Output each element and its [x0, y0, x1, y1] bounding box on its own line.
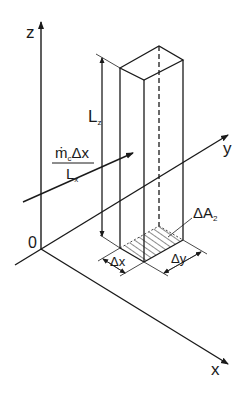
area-label: ΔA2: [193, 205, 217, 223]
flux-numerator: ṁcΔx: [55, 145, 89, 163]
dy-label: Δy: [171, 252, 186, 265]
flux-numerator-dx: Δx: [72, 144, 90, 161]
diagram-graphics: [0, 0, 244, 398]
area-label-main: ΔA: [193, 204, 213, 221]
y-axis-label: y: [223, 140, 232, 157]
origin-label: 0: [28, 235, 37, 251]
area-leader-line: [168, 218, 192, 237]
height-label: Lz: [88, 108, 101, 127]
height-label-sub: z: [97, 118, 101, 127]
y-axis: [15, 135, 228, 265]
area-label-sub: 2: [213, 214, 217, 223]
control-volume-diagram: z y x 0 Lz ṁcΔx Lx ΔA2 Δx Δy: [0, 0, 244, 398]
flux-denominator-sub: x: [74, 175, 78, 184]
height-dimension: [96, 54, 120, 248]
x-axis-label: x: [211, 361, 220, 378]
x-axis: [41, 249, 228, 364]
z-axis-label: z: [26, 24, 35, 41]
mass-flow-symbol: ṁ: [55, 144, 68, 161]
dx-label: Δx: [110, 255, 125, 268]
flux-denominator: Lx: [66, 166, 78, 184]
